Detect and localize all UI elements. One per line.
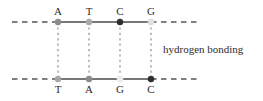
hydrogen-bond-lines-group xyxy=(58,22,151,79)
base-label-bottom-4: C xyxy=(141,84,161,95)
base-node-bottom-1 xyxy=(55,76,61,82)
base-label-bottom-3: G xyxy=(110,84,130,95)
base-node-bottom-2 xyxy=(86,76,92,82)
base-label-bottom-1: T xyxy=(48,84,68,95)
base-node-top-2 xyxy=(86,19,92,25)
dna-base-pairing-diagram: A T C G T A G C hydrogen bonding xyxy=(0,0,263,101)
base-label-top-1: A xyxy=(48,6,68,17)
base-node-bottom-3 xyxy=(117,76,123,82)
hydrogen-bonding-annotation-label: hydrogen bonding xyxy=(163,43,243,56)
base-node-top-1 xyxy=(55,19,61,25)
base-label-bottom-2: A xyxy=(79,84,99,95)
base-label-top-2: T xyxy=(79,6,99,17)
base-node-top-3 xyxy=(117,19,123,25)
base-node-bottom-4 xyxy=(148,76,154,82)
base-label-top-3: C xyxy=(110,6,130,17)
base-label-top-4: G xyxy=(141,6,161,17)
base-node-top-4 xyxy=(148,19,154,25)
